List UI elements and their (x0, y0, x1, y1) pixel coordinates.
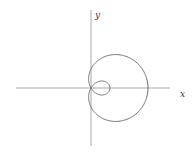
x-axis-label: x (180, 89, 185, 99)
y-axis-label: y (94, 10, 101, 20)
limacon-diagram: y x (0, 0, 193, 157)
